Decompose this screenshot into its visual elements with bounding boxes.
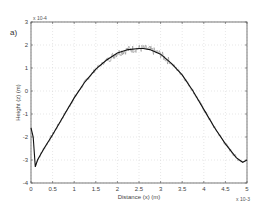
x-tick-label: 5 bbox=[245, 186, 249, 192]
noisy-profile-line bbox=[36, 45, 242, 164]
y-tick-label: 0 bbox=[25, 88, 29, 94]
y-tick-label: 3 bbox=[25, 19, 29, 25]
panel-label: a) bbox=[10, 28, 17, 37]
y-tick-label: -1 bbox=[23, 111, 29, 117]
y-tick-label: -2 bbox=[23, 134, 29, 140]
x-axis-label: Distance (x) (m) bbox=[118, 194, 161, 200]
x-tick-label: 0.5 bbox=[48, 186, 57, 192]
x-tick-label: 1.5 bbox=[92, 186, 101, 192]
x-tick-label: 4.5 bbox=[221, 186, 230, 192]
x-tick-label: 4 bbox=[202, 186, 206, 192]
y-axis-label: Height (z) (m) bbox=[15, 84, 21, 121]
x-tick-label: 1 bbox=[73, 186, 77, 192]
x-tick-label: 3 bbox=[159, 186, 163, 192]
y-tick-label: 2 bbox=[25, 42, 29, 48]
x-tick-label: 0 bbox=[29, 186, 33, 192]
x-multiplier: x 10-3 bbox=[236, 196, 250, 202]
profile-line bbox=[31, 49, 247, 167]
x-tick-label: 2.5 bbox=[135, 186, 144, 192]
line-chart: 00.511.522.533.544.55-4-3-2-10123x 10-4x… bbox=[0, 0, 268, 212]
y-tick-label: -4 bbox=[23, 180, 29, 186]
y-tick-label: 1 bbox=[25, 65, 29, 71]
y-multiplier: x 10-4 bbox=[33, 15, 47, 21]
y-tick-label: -3 bbox=[23, 157, 29, 163]
x-tick-label: 3.5 bbox=[178, 186, 187, 192]
x-tick-label: 2 bbox=[116, 186, 120, 192]
